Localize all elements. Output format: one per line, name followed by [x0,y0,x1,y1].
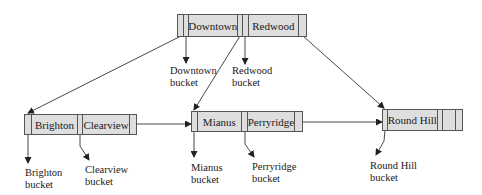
root-key-downtown: Downtown [189,15,238,36]
edge-perryridge-bucket [245,131,254,157]
leaf-node-3: Round Hill [382,109,463,131]
bucket-label-line: Downtown [170,65,217,77]
bucket-label-line: Brighton [25,167,62,179]
empty-key-cell [443,110,455,130]
bucket-label-redwood: Redwood bucket [232,65,272,89]
bucket-label-line: bucket [252,173,296,185]
bucket-label-mianus: Mianus bucket [191,162,223,186]
bucket-label-line: Clearview [85,164,128,176]
bucket-label-line: Mianus [191,162,223,174]
bucket-label-line: Round Hill [370,160,417,172]
bucket-label-line: bucket [232,77,272,89]
leaf-key-brighton: Brighton [32,115,78,134]
leaf-key-mianus: Mianus [198,112,242,131]
bucket-label-line: bucket [25,179,62,191]
bucket-label-line: Perryridge [252,161,296,173]
leaf-node-1: Brighton Clearview [24,114,137,135]
bucket-label-line: bucket [170,77,217,89]
bucket-label-line: bucket [85,176,128,188]
edge-clearview-bucket [80,134,89,160]
bucket-label-downtown: Downtown bucket [170,65,217,89]
pointer-cell [25,115,32,134]
pointer-cell [299,15,306,36]
pointer-cell [456,110,463,130]
leaf-key-roundhill: Round Hill [388,110,438,130]
bucket-label-brighton: Brighton bucket [25,167,62,191]
edge-roundhill-bucket [376,130,385,155]
bucket-label-line: bucket [191,174,223,186]
pointer-cell [295,112,302,131]
pointer-cell [130,115,136,134]
edge-root-to-brighton [28,36,181,113]
bucket-label-roundhill: Round Hill bucket [370,160,417,184]
root-key-redwood: Redwood [249,15,300,36]
leaf-key-perryridge: Perryridge [248,112,295,131]
bucket-label-perryridge: Perryridge bucket [252,161,296,185]
leaf-node-2: Mianus Perryridge [191,111,303,132]
bucket-label-line: bucket [370,172,417,184]
bucket-label-line: Redwood [232,65,272,77]
leaf-key-clearview: Clearview [83,115,130,134]
bucket-label-clearview: Clearview bucket [85,164,128,188]
root-node: Downtown Redwood [177,14,307,37]
edge-root-to-roundhill [303,36,384,108]
